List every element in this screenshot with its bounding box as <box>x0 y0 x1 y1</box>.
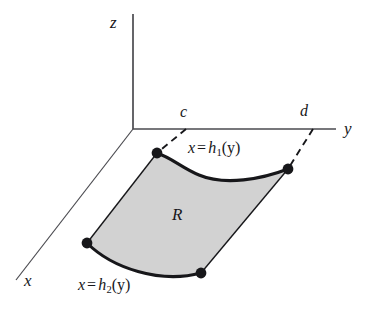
bound-label-c: c <box>180 104 187 120</box>
dashed-line-c <box>157 129 186 153</box>
h2-function: h <box>98 276 106 293</box>
h1-equals: = <box>195 139 208 156</box>
figure-svg <box>0 0 370 315</box>
y-axis-label: y <box>344 120 352 137</box>
region-r-shape <box>87 153 288 277</box>
h2-argument: (y) <box>112 276 131 293</box>
curve-h1-label: x=h1(y) <box>188 140 240 159</box>
lower-left-vertex-dot <box>82 238 93 249</box>
lower-right-vertex-dot <box>196 268 207 279</box>
figure-canvas: z y x c d R x=h1(y) x=h2(y) <box>0 0 370 315</box>
h2-equals: = <box>85 276 98 293</box>
x-axis-label: x <box>24 272 32 289</box>
upper-left-vertex-dot <box>152 148 163 159</box>
dashed-line-d <box>288 129 313 169</box>
bound-label-d: d <box>300 103 308 119</box>
region-label-r: R <box>172 206 182 223</box>
z-axis-label: z <box>110 14 117 31</box>
h1-argument: (y) <box>222 139 241 156</box>
curve-h2-label: x=h2(y) <box>78 277 130 296</box>
h1-function: h <box>208 139 216 156</box>
upper-right-vertex-dot <box>283 164 294 175</box>
